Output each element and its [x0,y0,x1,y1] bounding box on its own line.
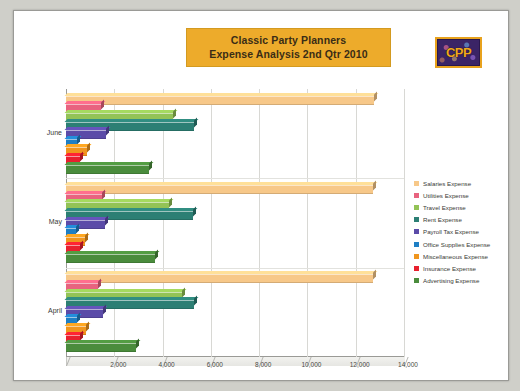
legend-item-travel-expense[interactable]: Travel Expense [414,201,506,213]
bar-end-face [98,279,101,289]
logo-text: CPP [446,45,471,60]
legend-swatch [414,266,419,271]
chart-title-line1: Classic Party Planners [231,34,346,47]
bar-end-face [374,91,377,101]
logo-background: CPP [437,39,480,66]
bar-end-face [77,313,80,323]
legend-item-utilities-expense[interactable]: Utilities Expense [414,189,506,201]
x-axis-tick-label: 6,000 [207,361,223,368]
bar-front-face [66,165,149,174]
bar-end-face [373,270,376,280]
category-label-may: May [32,218,62,225]
legend-swatch [414,217,419,222]
bar-end-face [136,339,139,349]
legend-swatch [414,242,419,247]
x-axis-tick-label: 12,000 [350,361,370,368]
x-axis-tick-label: 2,000 [110,361,126,368]
legend-item-salaries-expense[interactable]: Salaries Expense [414,177,506,189]
bar-end-face [194,296,197,306]
legend-label: Utilities Expense [423,192,469,199]
x-axis-tick-label: 4,000 [158,361,174,368]
legend-swatch [414,278,419,283]
category-separator [66,178,404,179]
bar-end-face [193,206,196,216]
chart-sheet: Classic Party Planners Expense Analysis … [13,10,509,381]
bar-end-face [173,108,176,118]
bar-advertising-expense-may[interactable] [66,254,155,261]
legend-swatch [414,205,419,210]
bar-front-face [66,274,373,283]
bar-end-face [77,134,80,144]
gridline [211,89,212,357]
category-label-june: June [32,129,62,136]
legend-label: Travel Expense [423,204,466,211]
legend-label: Payroll Tax Expense [423,228,479,235]
x-axis-tick-label: 8,000 [255,361,271,368]
gridline [356,89,357,357]
bar-salaries-expense-april[interactable] [66,274,373,281]
x-axis-tick-label: 10,000 [301,361,321,368]
bar-end-face [101,100,104,110]
legend-swatch [414,254,419,259]
legend-item-insurance-expense[interactable]: Insurance Expense [414,262,506,274]
legend-label: Insurance Expense [423,265,476,272]
bar-salaries-expense-may[interactable] [66,185,373,192]
x-axis-tick-label: 14,000 [398,361,418,368]
gridline [307,89,308,357]
bar-end-face [103,304,106,314]
legend-label: Rent Expense [423,216,462,223]
category-separator [66,268,404,269]
category-label-april: April [32,307,62,314]
bar-advertising-expense-june[interactable] [66,165,149,172]
legend-label: Miscellaneous Expense [423,253,488,260]
legend-item-advertising-expense[interactable]: Advertising Expense [414,275,506,287]
bar-end-face [87,143,90,153]
legend-item-rent-expense[interactable]: Rent Expense [414,214,506,226]
bar-front-face [66,254,155,263]
bar-front-face [66,343,136,352]
chart-title-banner: Classic Party Planners Expense Analysis … [186,28,391,67]
chart-legend: Salaries ExpenseUtilities ExpenseTravel … [414,177,506,287]
bar-end-face [373,181,376,191]
bar-end-face [182,287,185,297]
company-logo: CPP [435,37,482,68]
bar-end-face [80,330,83,340]
bar-end-face [149,160,152,170]
legend-item-payroll-tax-expense[interactable]: Payroll Tax Expense [414,226,506,238]
bar-end-face [102,189,105,199]
bar-end-face [105,215,108,225]
bar-end-face [86,322,89,332]
bar-end-face [80,241,83,251]
bar-end-face [194,117,197,127]
legend-item-miscellaneous-expense[interactable]: Miscellaneous Expense [414,250,506,262]
bar-end-face [85,232,88,242]
chart-title-line2: Expense Analysis 2nd Qtr 2010 [209,48,367,61]
legend-swatch [414,193,419,198]
bar-end-face [106,126,109,136]
chart-page: Classic Party Planners Expense Analysis … [0,0,520,391]
legend-label: Salaries Expense [423,180,471,187]
bar-end-face [169,198,172,208]
gridline [404,89,405,357]
legend-label: Advertising Expense [423,277,479,284]
gridline [259,89,260,357]
legend-label: Office Supplies Expense [423,241,490,248]
plot-area: 2,0004,0006,0008,00010,00012,00014,000 J… [66,89,404,357]
bar-salaries-expense-june[interactable] [66,96,374,103]
bar-front-face [66,96,374,105]
bar-end-face [155,249,158,259]
bar-end-face [76,224,79,234]
legend-swatch [414,181,419,186]
legend-swatch [414,229,419,234]
bar-front-face [66,185,373,194]
bar-advertising-expense-april[interactable] [66,343,136,350]
legend-item-office-supplies-expense[interactable]: Office Supplies Expense [414,238,506,250]
